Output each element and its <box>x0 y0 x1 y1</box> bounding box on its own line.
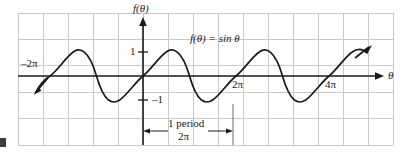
y-axis-label: f(θ) <box>133 3 149 14</box>
period-label-line1: 1 period <box>168 118 204 129</box>
page-edge-mark <box>0 138 6 147</box>
y-tick-label-1: 1 <box>130 46 136 57</box>
x-tick-label-neg2pi: –2π <box>21 58 38 69</box>
y-tick-label-neg1: –1 <box>152 94 163 105</box>
x-axis-label: θ <box>388 70 393 81</box>
x-tick-label-4pi: 4π <box>325 79 336 90</box>
y-axis <box>139 17 147 145</box>
function-label: f(θ) = sin θ <box>190 33 240 44</box>
sine-plot-svg <box>0 0 407 155</box>
x-tick-label-2pi: 2π <box>232 79 243 90</box>
sine-graph-figure: f(θ) θ f(θ) = sin θ 1 –1 –2π 2π 4π 1 per… <box>0 0 407 155</box>
period-label-line2: 2π <box>178 131 189 142</box>
